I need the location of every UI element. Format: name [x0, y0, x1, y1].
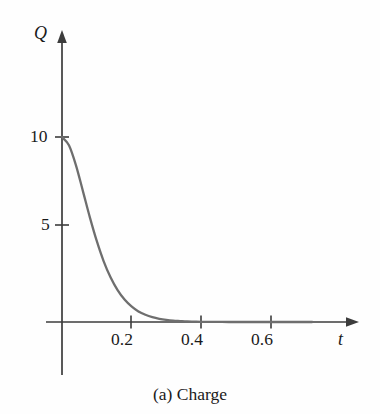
charge-figure: Q t 10 5 0.2 0.4 0.6 (a) Charge — [0, 0, 380, 414]
figure-caption: (a) Charge — [0, 384, 380, 405]
chart-plot-area — [0, 0, 380, 414]
x-tick-label-0-4: 0.4 — [181, 331, 203, 349]
y-axis-label: Q — [34, 24, 47, 42]
y-axis-arrowhead — [57, 30, 67, 43]
charge-decay-curve — [62, 137, 312, 322]
y-tick-label-10: 10 — [30, 128, 48, 146]
x-axis-label: t — [338, 330, 343, 348]
x-tick-label-0-2: 0.2 — [111, 331, 133, 349]
x-axis-arrowhead — [346, 317, 359, 327]
y-tick-label-5: 5 — [41, 216, 50, 234]
x-tick-label-0-6: 0.6 — [251, 331, 273, 349]
